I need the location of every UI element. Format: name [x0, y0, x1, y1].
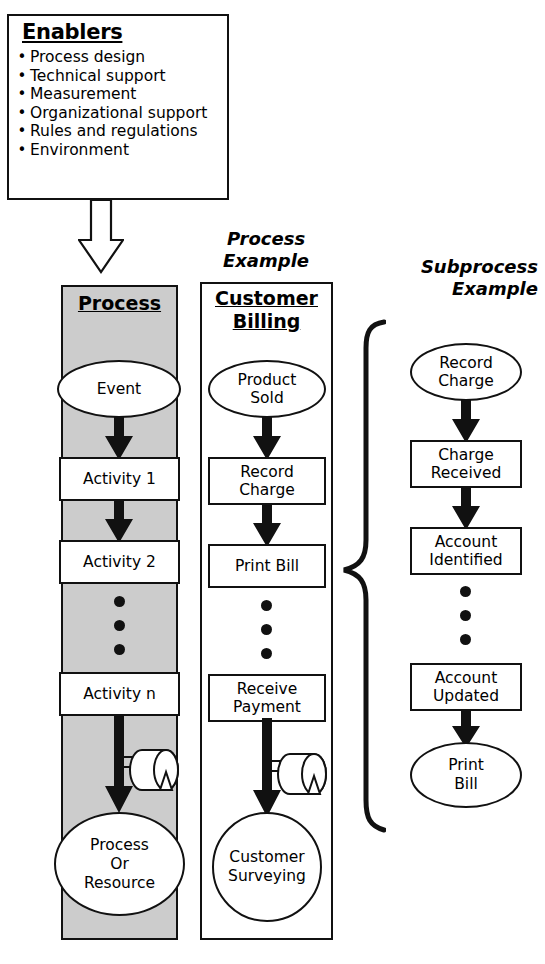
node-label-line2: Or	[110, 855, 129, 873]
billing-node-product-sold: Product Sold	[208, 360, 326, 418]
node-label-line1: Process	[90, 836, 149, 854]
node-label-line2: Updated	[433, 687, 499, 705]
process-node-activity2: Activity 2	[59, 540, 180, 584]
node-label-line1: Record	[439, 354, 493, 372]
node-label-multiline: Charge Received	[431, 446, 502, 482]
node-label-multiline: Product Sold	[238, 371, 297, 407]
subprocess-node-record-charge: Record Charge	[410, 343, 522, 401]
node-label-line1: Account	[435, 533, 498, 551]
billing-node-print-bill: Print Bill	[208, 544, 326, 588]
list-item-label: Organizational support	[30, 104, 219, 123]
node-label-line1: Customer	[229, 848, 304, 866]
node-label-multiline: Record Charge	[239, 463, 295, 499]
billing-ellipsis-dots	[261, 600, 272, 659]
node-label: Activity 2	[83, 554, 156, 571]
process-example-caption: Process Example	[186, 228, 346, 272]
caption-line2: Example	[452, 278, 538, 299]
node-label-multiline: Customer Surveying	[228, 848, 306, 886]
node-label: Print Bill	[235, 558, 299, 575]
heading-line2: Billing	[233, 310, 301, 332]
billing-arrow-start-to-record-icon	[252, 416, 282, 461]
process-arrow-activity1-to-activity2-icon	[104, 499, 134, 544]
node-label-line1: Print	[448, 756, 484, 774]
node-label-line2: Bill	[454, 775, 478, 793]
subprocess-node-charge-received: Charge Received	[410, 440, 522, 488]
node-label-line2: Identified	[429, 551, 502, 569]
list-item-label: Rules and regulations	[30, 122, 219, 141]
node-label-line2: Charge	[438, 372, 494, 390]
subprocess-node-print-bill: Print Bill	[410, 742, 522, 808]
bullet-icon: •	[14, 104, 30, 123]
process-column-heading: Process	[61, 292, 178, 314]
node-label-line2: Received	[431, 464, 502, 482]
bullet-icon: •	[14, 85, 30, 104]
billing-node-record-charge: Record Charge	[208, 457, 326, 505]
process-node-terminal: Process Or Resource	[54, 812, 185, 916]
list-item: • Rules and regulations	[14, 122, 219, 141]
subprocess-node-account-updated: Account Updated	[410, 663, 522, 711]
list-item: • Environment	[14, 141, 219, 160]
list-item-label: Technical support	[30, 67, 219, 86]
subprocess-example-caption: Subprocess Example	[372, 256, 538, 300]
subprocess-curly-brace-icon	[340, 318, 386, 836]
process-storage-cylinder-icon	[122, 736, 184, 794]
node-label-line1: Receive	[237, 680, 298, 698]
node-label-line2: Surveying	[228, 867, 306, 885]
node-label-multiline: Record Charge	[438, 354, 494, 390]
process-node-event: Event	[57, 360, 181, 418]
subprocess-ellipsis-dots	[460, 586, 471, 645]
billing-node-receive-payment: Receive Payment	[208, 674, 326, 722]
bullet-icon: •	[14, 141, 30, 160]
node-label-multiline: Account Identified	[429, 533, 502, 569]
list-item: • Organizational support	[14, 104, 219, 123]
node-label-multiline: Account Updated	[433, 669, 499, 705]
bullet-icon: •	[14, 122, 30, 141]
heading-line1: Customer	[215, 287, 318, 309]
node-label-line1: Product	[238, 371, 297, 389]
node-label-line1: Record	[240, 463, 294, 481]
bullet-icon: •	[14, 48, 30, 67]
node-label-multiline: Print Bill	[448, 756, 484, 794]
node-label-multiline: Process Or Resource	[84, 836, 155, 893]
enablers-title: Enablers	[22, 20, 122, 44]
subprocess-node-account-identified: Account Identified	[410, 527, 522, 575]
node-label-line2: Sold	[250, 389, 283, 407]
billing-node-terminal: Customer Surveying	[212, 812, 322, 922]
node-label-line1: Charge	[438, 446, 494, 464]
subprocess-arrow-2-icon	[451, 486, 481, 531]
node-label-multiline: Receive Payment	[233, 680, 301, 716]
node-label-line2: Payment	[233, 698, 301, 716]
process-arrow-event-to-activity1-icon	[104, 416, 134, 461]
caption-line2: Example	[223, 250, 309, 271]
billing-column-heading: Customer Billing	[200, 287, 333, 333]
node-label: Event	[97, 381, 141, 398]
process-node-activity1: Activity 1	[59, 457, 180, 501]
node-label-line1: Account	[435, 669, 498, 687]
subprocess-arrow-1-icon	[451, 399, 481, 444]
list-item: • Measurement	[14, 85, 219, 104]
billing-arrow-record-to-print-icon	[252, 503, 282, 548]
list-item: • Technical support	[14, 67, 219, 86]
list-item-label: Measurement	[30, 85, 219, 104]
enabler-to-process-arrow-icon	[78, 200, 124, 274]
list-item-label: Process design	[30, 48, 219, 67]
bullet-icon: •	[14, 67, 30, 86]
node-label-line2: Charge	[239, 481, 295, 499]
list-item-label: Environment	[30, 141, 219, 160]
node-label-line3: Resource	[84, 874, 155, 892]
caption-line1: Process	[227, 228, 305, 249]
enablers-list: • Process design • Technical support • M…	[14, 48, 219, 160]
caption-line1: Subprocess	[421, 256, 538, 277]
node-label: Activity n	[83, 686, 156, 703]
billing-storage-cylinder-icon	[270, 740, 332, 798]
node-label: Activity 1	[83, 471, 156, 488]
process-node-activity-n: Activity n	[59, 672, 180, 716]
process-ellipsis-dots	[114, 596, 125, 655]
list-item: • Process design	[14, 48, 219, 67]
